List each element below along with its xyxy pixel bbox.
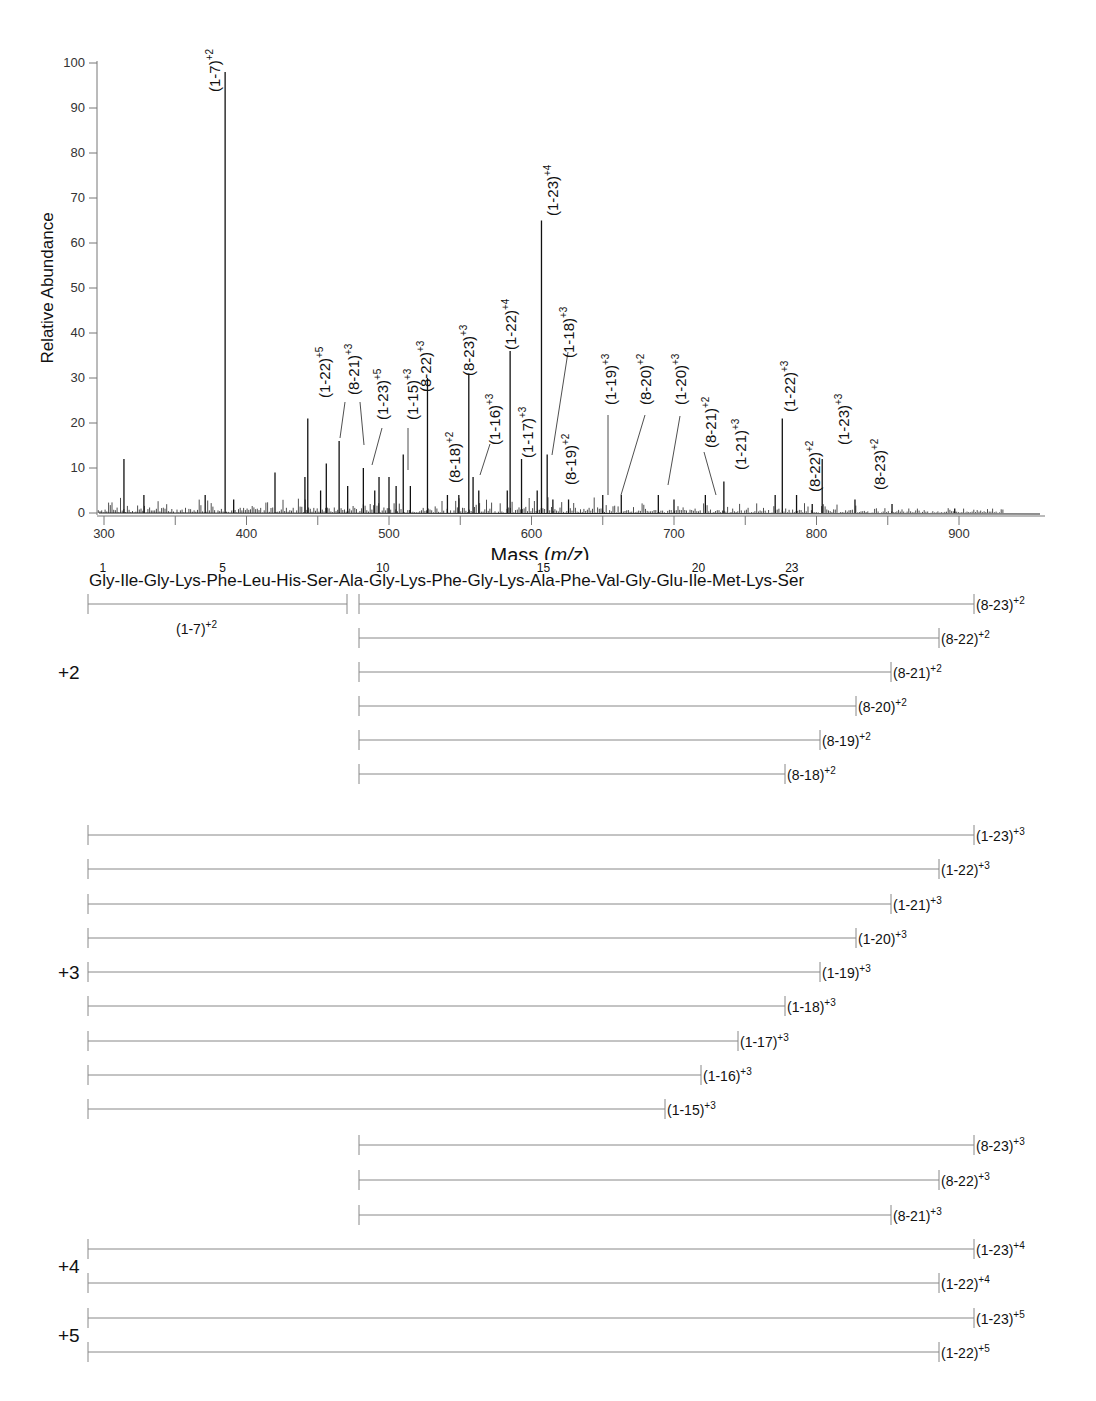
residue-number: 1 (99, 561, 106, 575)
fragment-label: (8-20)+2 (858, 697, 907, 715)
fragment-row: (1-23)+5 (88, 1308, 1025, 1328)
fragment-map: Gly-Ile-Gly-Lys-Phe-Leu-His-Ser-Ala-Gly-… (0, 0, 1096, 1401)
fragment-label: (1-19)+3 (822, 963, 871, 981)
residue-number: 20 (692, 561, 706, 575)
fragment-label: (8-21)+3 (893, 1206, 942, 1224)
charge-state-labels: +2+3+4+5 (58, 662, 80, 1346)
fragment-row: (8-23)+2 (359, 594, 1025, 614)
fragment-row: (1-16)+3 (88, 1065, 752, 1085)
fragment-row: (8-19)+2 (359, 730, 871, 750)
residue-number: 15 (537, 561, 551, 575)
fragment-row: (1-7)+2 (88, 594, 347, 637)
fragment-row: (1-15)+3 (88, 1099, 716, 1119)
fragment-row: (1-17)+3 (88, 1031, 789, 1051)
fragment-row: (8-23)+3 (359, 1135, 1025, 1155)
fragment-label: (1-20)+3 (858, 929, 907, 947)
fragment-row: (1-21)+3 (88, 894, 942, 914)
fragment-row: (1-18)+3 (88, 996, 836, 1016)
charge-state-label: +2 (58, 662, 80, 683)
fragment-row: (8-21)+2 (359, 662, 942, 682)
fragment-row: (8-18)+2 (359, 764, 836, 784)
fragment-row: (8-20)+2 (359, 696, 907, 716)
fragment-label: (8-21)+2 (893, 663, 942, 681)
fragment-label: (8-23)+2 (976, 595, 1025, 613)
fragment-label: (8-22)+3 (941, 1171, 990, 1189)
fragment-label: (8-23)+3 (976, 1136, 1025, 1154)
residue-number: 10 (376, 561, 390, 575)
fragment-row: (8-21)+3 (359, 1205, 942, 1225)
fragment-label: (8-22)+2 (941, 629, 990, 647)
fragment-label: (1-17)+3 (740, 1032, 789, 1050)
fragment-row: (1-20)+3 (88, 928, 907, 948)
fragment-row: (1-23)+3 (88, 825, 1025, 845)
fragment-label: (1-23)+5 (976, 1309, 1025, 1327)
fragment-row: (1-19)+3 (88, 962, 871, 982)
fragment-label: (1-23)+3 (976, 826, 1025, 844)
fragment-label: (1-23)+4 (976, 1240, 1025, 1258)
fragment-row: (1-22)+5 (88, 1342, 990, 1362)
charge-state-label: +3 (58, 962, 80, 983)
fragment-row: (1-22)+4 (88, 1273, 990, 1293)
peptide-sequence: Gly-Ile-Gly-Lys-Phe-Leu-His-Ser-Ala-Gly-… (89, 561, 804, 590)
fragment-row: (8-22)+3 (359, 1170, 990, 1190)
fragment-label: (1-22)+5 (941, 1343, 990, 1361)
fragment-label: (1-16)+3 (703, 1066, 752, 1084)
charge-state-label: +4 (58, 1256, 80, 1277)
fragment-label: (8-18)+2 (787, 765, 836, 783)
charge-state-label: +5 (58, 1325, 80, 1346)
fragment-label: (1-7)+2 (176, 619, 217, 637)
fragment-label: (8-19)+2 (822, 731, 871, 749)
fragment-label: (1-22)+3 (941, 860, 990, 878)
fragment-label: (1-22)+4 (941, 1274, 990, 1292)
fragment-label: (1-21)+3 (893, 895, 942, 913)
fragment-label: (1-15)+3 (667, 1100, 716, 1118)
fragment-row: (1-23)+4 (88, 1239, 1025, 1259)
fragment-label: (1-18)+3 (787, 997, 836, 1015)
fragment-row: (8-22)+2 (359, 628, 990, 648)
residue-number: 23 (785, 561, 799, 575)
residue-number: 5 (219, 561, 226, 575)
fragment-row: (1-22)+3 (88, 859, 990, 879)
fragment-rows: (1-7)+2(8-23)+2(8-22)+2(8-21)+2(8-20)+2(… (88, 594, 1025, 1362)
